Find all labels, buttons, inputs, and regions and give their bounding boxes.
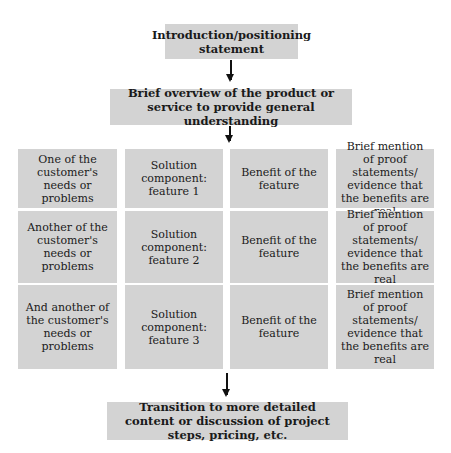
transition-text: Transition to more detailed content or d…	[113, 400, 342, 442]
arrow-down-icon	[226, 373, 228, 395]
solution-cell-2: Solution component: feature 2	[125, 211, 223, 283]
proof-cell-3: Brief mention of proof statements/ evide…	[336, 285, 434, 369]
benefit-text: Benefit of the feature	[234, 314, 324, 340]
solution-text: Solution component: feature 2	[129, 228, 219, 267]
need-cell-1: One of the customer's needs or problems	[18, 149, 117, 208]
benefit-text: Benefit of the feature	[234, 234, 324, 260]
need-cell-2: Another of the customer's needs or probl…	[18, 211, 117, 283]
solution-text: Solution component: feature 3	[129, 308, 219, 347]
need-text: One of the customer's needs or problems	[22, 153, 113, 205]
overview-text: Brief overview of the product or service…	[118, 86, 344, 128]
intro-box: Introduction/positioning statement	[165, 24, 298, 59]
arrow-down-icon	[230, 60, 232, 80]
benefit-cell-3: Benefit of the feature	[230, 285, 328, 369]
proof-text: Brief mention of proof statements/ evide…	[340, 140, 430, 218]
benefit-text: Benefit of the feature	[234, 166, 324, 192]
need-cell-3: And another of the customer's needs or p…	[18, 285, 117, 369]
benefit-cell-1: Benefit of the feature	[230, 149, 328, 208]
benefit-cell-2: Benefit of the feature	[230, 211, 328, 283]
solution-cell-3: Solution component: feature 3	[125, 285, 223, 369]
proof-text: Brief mention of proof statements/ evide…	[340, 288, 430, 366]
solution-cell-1: Solution component: feature 1	[125, 149, 223, 208]
proof-cell-2: Brief mention of proof statements/ evide…	[336, 211, 434, 283]
need-text: And another of the customer's needs or p…	[22, 301, 113, 353]
proof-text: Brief mention of proof statements/ evide…	[340, 208, 430, 286]
intro-text: Introduction/positioning statement	[152, 28, 311, 56]
overview-box: Brief overview of the product or service…	[110, 89, 352, 125]
need-text: Another of the customer's needs or probl…	[22, 221, 113, 273]
solution-text: Solution component: feature 1	[129, 159, 219, 198]
arrow-down-icon	[229, 126, 231, 141]
transition-box: Transition to more detailed content or d…	[107, 402, 348, 440]
proof-cell-1: Brief mention of proof statements/ evide…	[336, 149, 434, 208]
